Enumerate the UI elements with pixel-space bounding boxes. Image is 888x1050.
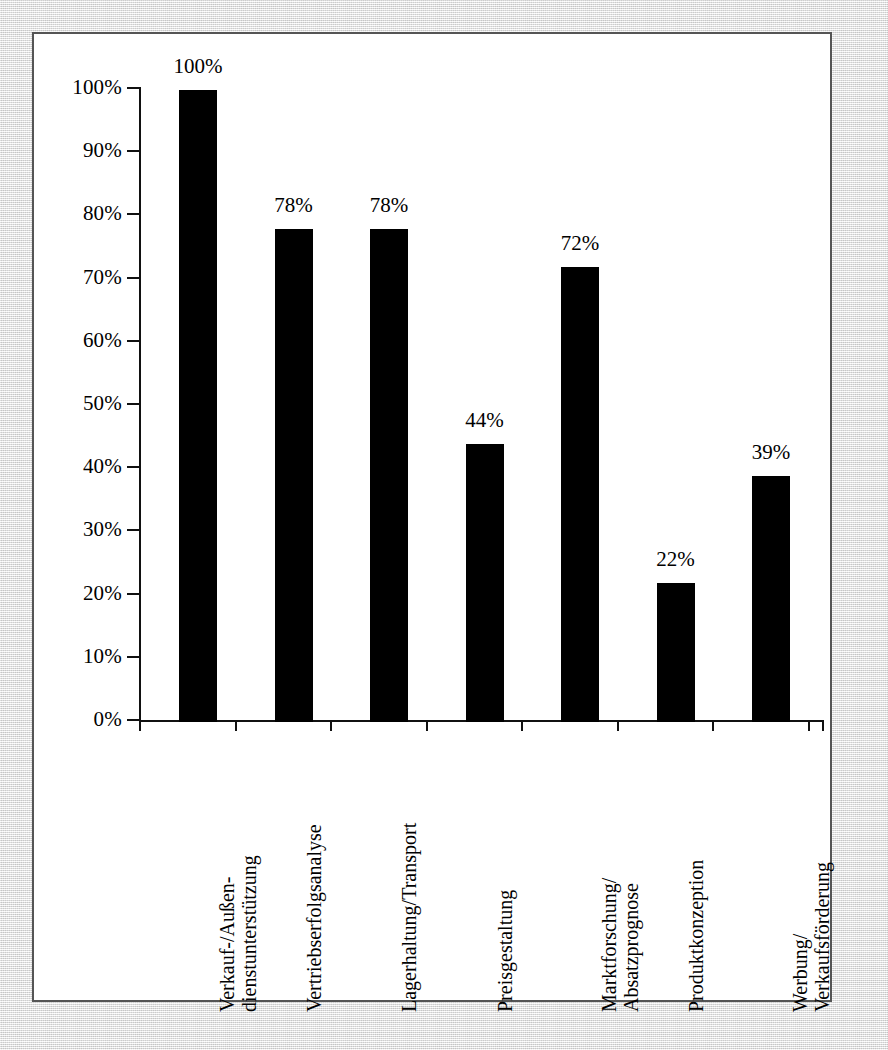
x-tick-end: [822, 720, 824, 731]
bar: [370, 229, 408, 722]
y-tick-label-50: 50%: [44, 393, 122, 414]
x-tick: [617, 720, 619, 731]
y-tick-label-0: 0%: [44, 709, 122, 730]
x-tick: [139, 720, 141, 731]
y-tick-label-80: 80%: [44, 203, 122, 224]
x-tick: [235, 720, 237, 731]
x-tick: [330, 720, 332, 731]
x-tick: [808, 720, 810, 731]
category-label: Produktkonzeption: [685, 860, 707, 1012]
y-tick-label-30: 30%: [44, 519, 122, 540]
bar: [179, 90, 217, 722]
bar-value-label: 39%: [726, 442, 816, 463]
y-tick-70: [127, 277, 141, 279]
bar-value-label: 78%: [249, 195, 339, 216]
bar-value-label: 44%: [440, 410, 530, 431]
bar: [466, 444, 504, 722]
x-tick: [712, 720, 714, 731]
y-tick-10: [127, 656, 141, 658]
x-tick: [426, 720, 428, 731]
y-axis-line: [139, 88, 141, 722]
bar-value-label: 22%: [631, 549, 721, 570]
x-tick: [521, 720, 523, 731]
y-tick-label-40: 40%: [44, 456, 122, 477]
y-tick-label-70: 70%: [44, 267, 122, 288]
y-tick-60: [127, 340, 141, 342]
y-tick-label-90: 90%: [44, 140, 122, 161]
y-axis-tick-labels: 0%10%20%30%40%50%60%70%80%90%100%: [34, 34, 122, 1004]
y-tick-40: [127, 466, 141, 468]
plot-area: 0%10%20%30%40%50%60%70%80%90%100% 100%78…: [34, 34, 834, 1004]
bar-value-label: 78%: [344, 195, 434, 216]
y-tick-label-10: 10%: [44, 646, 122, 667]
category-label: Werbung/Verkaufsförderung: [789, 862, 834, 1012]
category-label: Verkauf-/Außen-dienstunterstützung: [216, 855, 261, 1012]
y-tick-30: [127, 529, 141, 531]
figure-background: 0%10%20%30%40%50%60%70%80%90%100% 100%78…: [0, 0, 888, 1050]
y-tick-80: [127, 213, 141, 215]
bar: [752, 476, 790, 722]
y-tick-label-60: 60%: [44, 330, 122, 351]
y-tick-label-100: 100%: [44, 77, 122, 98]
y-tick-100: [127, 87, 141, 89]
y-tick-90: [127, 150, 141, 152]
y-tick-label-20: 20%: [44, 583, 122, 604]
bar: [275, 229, 313, 722]
bar-value-label: 100%: [153, 56, 243, 77]
bar: [561, 267, 599, 722]
y-tick-50: [127, 403, 141, 405]
bar: [657, 583, 695, 722]
category-label: Lagerhaltung/Transport: [398, 823, 420, 1012]
y-tick-20: [127, 593, 141, 595]
category-label: Preisgestaltung: [494, 890, 516, 1012]
category-label: Vertriebserfolgsanalyse: [303, 824, 325, 1012]
category-label: Marktforschung/Absatzprognose: [598, 878, 643, 1012]
chart-panel: 0%10%20%30%40%50%60%70%80%90%100% 100%78…: [32, 32, 832, 1002]
bar-value-label: 72%: [535, 233, 625, 254]
